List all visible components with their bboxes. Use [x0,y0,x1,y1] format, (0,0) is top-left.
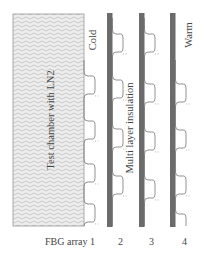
array-label-4: 4 [182,236,187,247]
fbg-setup-diagram: Test chamber with LN2 Cold Multi layer i… [0,0,205,257]
insulation-bar-3 [139,13,145,227]
cold-label: Cold [87,29,98,50]
insulation-bars [107,13,176,227]
insulation-bar-4 [170,13,176,227]
fbg-array-2 [113,18,124,226]
chamber-label: Test chamber with LN2 [45,70,56,169]
insulation-label: Multi layer insulation [124,82,135,174]
insulation-bar-2 [107,13,113,227]
fbg-array-3 [145,18,156,226]
warm-label: Warm [183,22,194,47]
array-label-1: FBG array 1 [45,236,95,247]
fbg-array-4 [176,60,187,226]
array-label-2: 2 [118,236,123,247]
fbg-array-1 [84,60,95,226]
array-label-3: 3 [149,236,154,247]
